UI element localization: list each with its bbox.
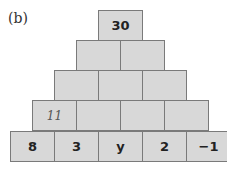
brick-r4-c4 [164, 100, 209, 131]
brick-r2-c2 [120, 40, 165, 71]
brick-r5-c1: 8 [10, 131, 55, 162]
brick-r1-c1: 30 [98, 10, 143, 41]
brick-r3-c3 [142, 70, 187, 101]
brick-r5-c5: −1 [186, 131, 227, 162]
brick-r4-c1-handwritten: 11 [32, 100, 77, 131]
brick-r5-c3: y [98, 131, 143, 162]
brick-r2-c1 [76, 40, 121, 71]
brick-r3-c2 [98, 70, 143, 101]
brick-r5-c4: 2 [142, 131, 187, 162]
brick-r4-c2 [76, 100, 121, 131]
figure-label: (b) [8, 10, 28, 26]
brick-r4-c3 [120, 100, 165, 131]
brick-r3-c1 [54, 70, 99, 101]
brick-r5-c2: 3 [54, 131, 99, 162]
